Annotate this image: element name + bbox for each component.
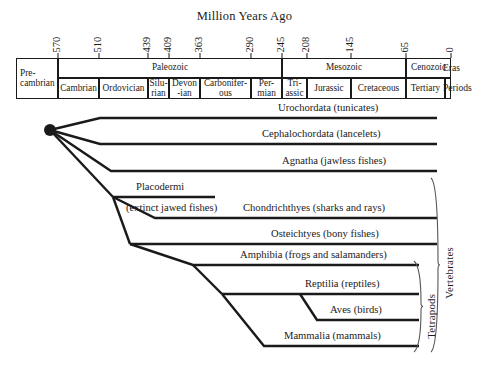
taxon-label-placodermi: Placodermi [136,181,184,192]
period-cell-label: Cretaceous [358,84,399,94]
bracket-label-vertebrates: Vertebrates [444,247,455,299]
taxon-label-aves: Aves (birds) [330,304,382,315]
era-cell-label: Cenozoic [411,63,446,73]
bracket-label-tetrapods: Tetrapods [426,294,437,339]
period-cell-carboniferous: Carbonifer- ous [200,78,251,99]
root-node [44,124,56,136]
period-cell-ordovician: Ordovician [99,78,148,99]
period-cell-label: Silu- rian [149,79,167,99]
era-cell-precambrian: Pre- cambrian [16,58,58,99]
period-cell-label: Tertiary [411,84,440,94]
taxon-label-agnatha: Agnatha (jawless fishes) [282,155,386,166]
period-cell-tertiary: Tertiary [406,78,445,99]
taxon-label-mammalia: Mammalia (mammals) [284,330,381,341]
era-cell-label: Pre- cambrian [20,69,55,89]
era-cell-paleozoic: Paleozoic [58,58,282,78]
period-cell-silurian: Silu- rian [148,78,169,99]
period-cell-label: Ordovician [103,84,145,94]
branch-amniote-stem [193,265,222,294]
period-cell-cretaceous: Cretaceous [351,78,406,99]
bracket-tetrapods [414,261,423,352]
period-cell-triassic: Tri- assic [282,78,307,99]
taxon-label-extinct: (extinct jawed fishes) [126,202,217,213]
period-cell-jurassic: Jurassic [307,78,351,99]
period-cell-label: Cambrian [60,84,97,94]
era-cell-label: Mesozoic [326,63,362,73]
period-cell-permian: Per- mian [251,78,282,99]
era-cell-label: Paleozoic [152,63,188,73]
taxon-label-chondrichthyes: Chondrichthyes (sharks and rays) [243,202,385,213]
diagram-canvas [0,0,489,368]
period-cell-devonian: Devon -ian [169,78,200,99]
eras-row-label: Eras [443,62,460,73]
periods-row-label: Periods [443,82,472,93]
era-cell-mesozoic: Mesozoic [282,58,406,78]
period-cell-label: Carbonifer- ous [204,79,247,99]
taxon-label-reptilia: Reptilia (reptiles) [305,278,379,289]
taxon-label-amphibia: Amphibia (frogs and salamanders) [240,249,387,260]
period-cell-label: Tri- assic [285,79,303,99]
period-cell-label: Per- mian [257,79,276,99]
taxon-label-cephalochordata: Cephalochordata (lancelets) [262,128,381,139]
period-cell-label: Devon -ian [172,79,197,99]
phylogenetic-tree-figure: Million Years Ago 5705104394093632902452… [0,0,489,368]
taxon-label-osteichtyes: Osteichtyes (bony fishes) [271,228,379,239]
period-cell-label: Jurassic [314,84,343,94]
taxon-label-urochordata: Urochordata (tunicates) [278,102,378,113]
period-cell-cambrian: Cambrian [58,78,99,99]
